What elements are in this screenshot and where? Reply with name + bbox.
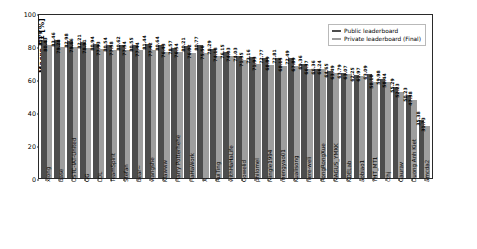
bar-value-label: 58.10 <box>371 74 376 88</box>
x-tick-label: HaHaWork <box>190 153 196 182</box>
bar-value-label: 79.66 <box>71 38 76 52</box>
bar-value-label: 80.43 <box>45 37 50 51</box>
bar-value-label: 79.28 <box>58 39 63 53</box>
bar-value-label: 80.55 <box>130 37 135 51</box>
bar-value-label: 76.54 <box>175 44 180 58</box>
x-tick-cell: base <box>52 181 65 247</box>
bar-pri: 77.44 <box>138 50 144 178</box>
x-tick-cell: philomel <box>249 181 262 247</box>
bar-value-label: 63.07 <box>345 66 350 80</box>
x-tick-label: Duong Anh Kiet <box>412 139 418 182</box>
bar-pri: 78.91 <box>86 48 92 178</box>
x-tick-cell: mengyao01 <box>275 181 288 247</box>
bar-pri: 80.43 <box>47 45 53 178</box>
x-tick-label: Kualisong <box>294 156 300 182</box>
y-tick-label: 80 <box>28 45 36 51</box>
x-tick-cell: MAGUS_YMXK <box>327 181 340 247</box>
bar-value-label: 77.58 <box>110 42 115 56</box>
x-tick-cell: bear~ <box>131 181 144 247</box>
legend-label-private: Private leaderboard (Final) <box>344 36 421 42</box>
bar-value-label: 76.02 <box>188 44 193 58</box>
bar-group: 72.4967.89 <box>288 15 301 178</box>
bar-value-label: 66.37 <box>305 60 310 74</box>
x-tick-cell: amcda2 <box>419 181 432 247</box>
x-tick-label: philomel <box>255 158 261 182</box>
bar-value-label: 78.57 <box>169 40 174 54</box>
bar-value-label: 76.43 <box>162 44 167 58</box>
bar-value-label: 80.21 <box>182 38 187 52</box>
x-tick-cell: aobiao1 <box>353 181 366 247</box>
bar-value-label: 71.93 <box>253 56 258 70</box>
bar-value-label: 78.29 <box>208 41 213 55</box>
bar-value-label: 80.64 <box>156 37 161 51</box>
x-tick-cell: Stefan <box>118 181 131 247</box>
y-tick-label: 100 <box>24 12 36 18</box>
x-tick-cell: Harry Potterhehe <box>170 181 183 247</box>
x-tick-cell: Mingle1994 <box>262 181 275 247</box>
x-tick-cell: Gaurav <box>393 181 406 247</box>
x-tick-cell: USTC-IAT-United <box>65 181 78 247</box>
bar-pri: 77.93 <box>99 49 105 178</box>
bar-value-label: 58.44 <box>384 73 389 87</box>
x-tick-label: wangshe <box>150 157 156 182</box>
figure: Macro F1 [%] 020406080100 83.7980.4383.4… <box>0 0 477 249</box>
bar-value-label: 68.15 <box>279 57 284 71</box>
x-tick-cell: Klawww <box>157 181 170 247</box>
bar-pri: 58.44 <box>385 82 391 178</box>
x-tick-cell: here-weli <box>301 181 314 247</box>
bar-value-label: 76.15 <box>222 44 227 58</box>
bar-value-label: 78.91 <box>84 40 89 54</box>
bar-value-label: 67.89 <box>292 58 297 72</box>
x-tick-label: USTC-IAT-United <box>72 138 78 182</box>
bar-value-label: 77.42 <box>149 42 154 56</box>
x-tick-cell: Kualisong <box>288 181 301 247</box>
legend-item-private: Private leaderboard (Final) <box>332 36 421 42</box>
bar-value-label: 63.49 <box>331 65 336 79</box>
bar-value-label: 75.56 <box>201 45 206 59</box>
x-tick-label: LOL <box>98 172 104 182</box>
y-tick-label: 0 <box>32 177 36 183</box>
x-tick-cell: GG <box>78 181 91 247</box>
x-tick-label: here-weli <box>307 157 313 182</box>
x-tick-label: X <box>203 178 209 182</box>
x-tick-label: Harry Potterhehe <box>176 135 182 182</box>
bar-value-label: 31.73 <box>423 118 428 132</box>
bar-pri: 79.28 <box>60 47 66 178</box>
x-tick-label: Mingle1994 <box>268 150 274 182</box>
bar-value-label: 81.44 <box>143 35 148 49</box>
x-tick-cell: wangshe <box>144 181 157 247</box>
x-tick-label: base <box>59 169 65 182</box>
x-axis-labels: xiongbaseUSTC-IAT-UnitedGGLOLTeamSpiritS… <box>38 181 433 247</box>
x-tick-cell: Gowelid <box>235 181 248 247</box>
x-tick-cell: YHT_MT1 <box>366 181 379 247</box>
bar-value-label: 77.54 <box>123 42 128 56</box>
x-tick-cell: HaHaWork <box>183 181 196 247</box>
bar-value-label: 47.38 <box>410 92 415 106</box>
bar-value-label: 80.54 <box>104 37 109 51</box>
bar-group: 69.3666.37 <box>301 15 314 178</box>
x-tick-cell: xiong <box>39 181 52 247</box>
x-tick-cell: withHaHaLife <box>222 181 235 247</box>
bar-value-label: 77.93 <box>97 41 102 55</box>
x-tick-label: RongRongXue <box>321 143 327 182</box>
x-tick-label: RuiTing <box>216 162 222 182</box>
x-tick-label: aobiao1 <box>360 160 366 182</box>
bar-group: 73.1671.93 <box>249 15 262 178</box>
x-tick-cell: KDELab <box>340 181 353 247</box>
x-tick-label: cthj <box>386 172 392 182</box>
plot-area: Macro F1 [%] 020406080100 83.7980.4383.4… <box>38 14 433 179</box>
bar-group: 80.6476.43 <box>157 15 170 178</box>
legend-swatch-private <box>332 38 341 40</box>
bar-value-label: 80.77 <box>195 37 200 51</box>
x-tick-label: amcda2 <box>425 160 431 182</box>
x-tick-label: Klawww <box>163 160 169 182</box>
bar-value-label: 52.23 <box>397 84 402 98</box>
legend-label-public: Public leaderboard <box>344 28 398 34</box>
bar-value-label: 71.35 <box>240 52 245 66</box>
bar-value-label: 74.18 <box>214 47 219 61</box>
bar-group: 78.2974.18 <box>209 15 222 178</box>
x-tick-cell: X <box>196 181 209 247</box>
x-tick-cell: Duong Anh Kiet <box>406 181 419 247</box>
x-tick-label: mengyao01 <box>281 149 287 182</box>
legend-item-public: Public leaderboard <box>332 28 421 34</box>
